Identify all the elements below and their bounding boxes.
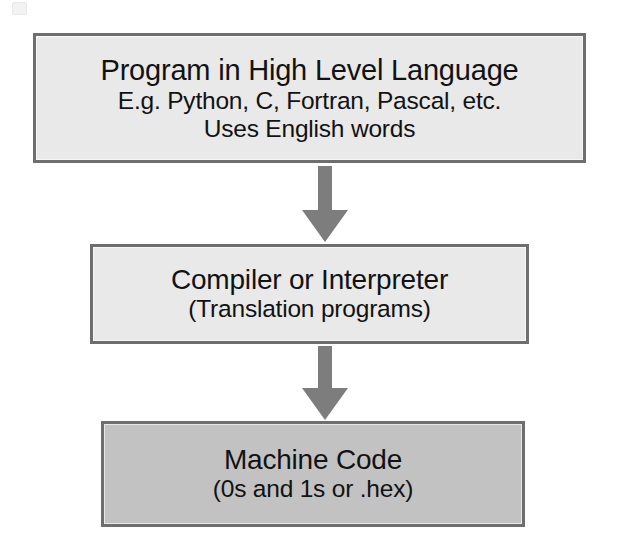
node-compiler-interpreter-line-1: Compiler or Interpreter — [171, 264, 448, 296]
node-compiler-interpreter[interactable]: Compiler or Interpreter (Translation pro… — [90, 244, 529, 344]
arrow-compiler-to-machine-icon — [302, 346, 348, 420]
down-arrow-icon — [302, 166, 348, 242]
node-machine-code-line-1: Machine Code — [224, 444, 402, 476]
node-high-level-language-line-1: Program in High Level Language — [101, 54, 519, 87]
scan-artifact-speck — [12, 2, 27, 15]
node-high-level-language-line-2: E.g. Python, C, Fortran, Pascal, etc. — [118, 87, 501, 116]
arrow-language-to-compiler-icon — [302, 166, 348, 242]
diagram-canvas: Program in High Level Language E.g. Pyth… — [0, 0, 619, 558]
node-machine-code[interactable]: Machine Code (0s and 1s or .hex) — [101, 421, 525, 527]
down-arrow-icon — [302, 346, 348, 420]
node-high-level-language-line-3: Uses English words — [204, 115, 416, 144]
node-compiler-interpreter-line-2: (Translation programs) — [188, 295, 431, 324]
node-high-level-language[interactable]: Program in High Level Language E.g. Pyth… — [33, 33, 586, 163]
node-machine-code-line-2: (0s and 1s or .hex) — [213, 475, 413, 504]
